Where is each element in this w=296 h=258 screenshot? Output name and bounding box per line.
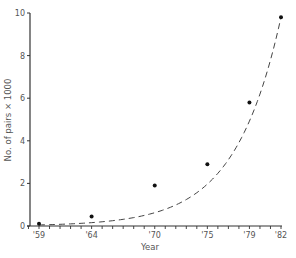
y-axis-label: No. of pairs × 1000 [3,79,13,162]
data-point [279,15,283,19]
y-tick-label: 2 [20,179,25,188]
y-tick-label: 10 [15,9,25,18]
x-axis-label: Year [140,242,160,252]
x-tick-label: '70 [149,231,161,240]
x-tick-label: '82 [275,231,287,240]
x-tick-label: '79 [243,231,255,240]
growth-chart: 0246810'59'64'70'75'79'82 Year No. of pa… [0,0,296,258]
y-tick-label: 8 [20,52,25,61]
fitted-curve [39,17,281,225]
fitted-curve-line [39,17,281,225]
data-point [37,222,41,226]
data-point [205,162,209,166]
y-tick-label: 4 [20,137,25,146]
x-tick-label: '59 [33,231,45,240]
data-points [37,15,283,226]
axes: 0246810'59'64'70'75'79'82 [15,9,287,240]
x-tick-label: '75 [201,231,213,240]
data-point [90,214,94,218]
y-tick-label: 0 [20,222,25,231]
data-point [153,184,157,188]
y-tick-label: 6 [20,94,25,103]
x-tick-label: '64 [85,231,97,240]
data-point [247,100,251,104]
